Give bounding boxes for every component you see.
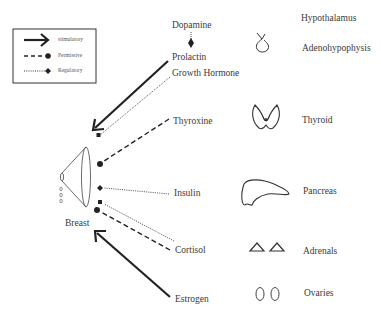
hormone-label-prolactin: Prolactin [172, 53, 206, 63]
pituitary-icon [256, 33, 268, 52]
legend-label-stimulatory: stimulatory [58, 37, 83, 43]
cortisol-regulatory-line [98, 200, 174, 241]
hormone-label-estrogen: Estrogen [175, 295, 209, 305]
legend-label-regulatory: Regulatory [58, 68, 82, 74]
gland-label-adenohypophysis: Adenohypophysis [302, 44, 371, 54]
estrogen-stimulatory-arrow [95, 231, 170, 297]
thyroid-icon [253, 105, 280, 129]
legend-label-permissive: Permissive [58, 53, 82, 59]
legend-box [13, 29, 96, 83]
hormone-label-growth-hormone: Growth Hormone [172, 69, 239, 79]
hormone-label-thyroxine: Thyroxine [173, 117, 213, 127]
gland-label-pancreas: Pancreas [303, 187, 337, 197]
gland-label-thyroid: Thyroid [302, 116, 333, 126]
hormone-label-dopamine: Dopamine [172, 21, 212, 31]
hormone-label-insulin: Insulin [174, 189, 200, 199]
gland-label-adrenals: Adrenals [303, 247, 337, 257]
insulin-regulatory-line [97, 185, 169, 194]
growth-hormone-regulatory-line [97, 77, 171, 137]
gland-label-ovaries: Ovaries [304, 289, 334, 299]
thyroxine-permissive-line [97, 119, 169, 167]
gland-label-hypothalamus: Hypothalamus [301, 14, 356, 24]
prolactin-stimulatory-arrow [93, 61, 168, 130]
hormone-breast-diagram: stimulatory Permissive Regulatory Dopami… [0, 0, 381, 317]
ovaries-icon [256, 288, 279, 301]
pancreas-icon [242, 180, 289, 205]
hormone-label-cortisol: Cortisol [175, 246, 206, 256]
adrenals-icon [250, 243, 284, 251]
target-label-breast: Breast [65, 219, 89, 229]
dopamine-regulatory-connector [188, 32, 194, 48]
cortisol-permissive-line [94, 207, 170, 250]
breast-cone-icon [60, 147, 91, 207]
